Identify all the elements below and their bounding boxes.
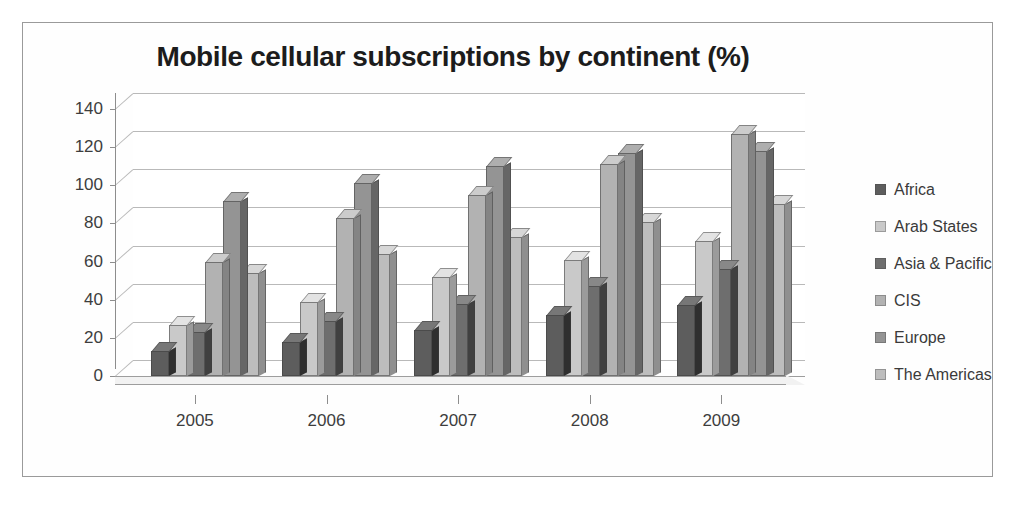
bar-side [504, 162, 511, 376]
x-tick-label: 2008 [571, 411, 609, 431]
bar-side [432, 327, 439, 376]
y-tick-label: 140 [75, 99, 103, 119]
bar-side [354, 214, 361, 376]
x-tick-mark [327, 395, 328, 404]
legend-swatch-icon [875, 184, 886, 195]
bar-side [695, 302, 702, 376]
legend-item-label: Europe [894, 329, 946, 347]
bar-side [486, 191, 493, 376]
bar-side [749, 130, 756, 376]
x-tick-label: 2007 [439, 411, 477, 431]
x-tick-label: 2006 [308, 411, 346, 431]
x-tick-label: 2009 [702, 411, 740, 431]
chart-legend: AfricaArab StatesAsia & PacificCISEurope… [875, 171, 1015, 393]
legend-swatch-icon [875, 295, 886, 306]
bar-side [336, 317, 343, 376]
y-tick-label: 20 [84, 328, 103, 348]
bar-side [564, 311, 571, 376]
legend-item-asia-pacific[interactable]: Asia & Pacific [875, 245, 1015, 282]
bar-africa-2008 [546, 315, 564, 376]
plot-wrapper: 020406080100120140 20052006200720082009 [23, 93, 843, 473]
y-tick-label: 100 [75, 175, 103, 195]
bar-side [450, 273, 457, 376]
legend-item-africa[interactable]: Africa [875, 171, 1015, 208]
bar-group-2007 [414, 101, 522, 376]
x-tick-label: 2005 [176, 411, 214, 431]
bar-side [731, 265, 738, 376]
legend-swatch-icon [875, 258, 886, 269]
y-tick-label: 60 [84, 252, 103, 272]
y-tick-label: 0 [94, 366, 103, 386]
y-tick-label: 120 [75, 137, 103, 157]
legend-item-arab-states[interactable]: Arab States [875, 208, 1015, 245]
x-axis-labels: 20052006200720082009 [115, 395, 805, 435]
legend-item-label: Africa [894, 181, 935, 199]
bar-group-2006 [282, 101, 390, 376]
bar-side [767, 147, 774, 376]
y-tick-label: 80 [84, 213, 103, 233]
bar-group-2009 [677, 101, 785, 376]
legend-item-label: CIS [894, 292, 921, 310]
bar-face [677, 305, 695, 376]
bar-face [151, 351, 169, 376]
legend-item-the-americas[interactable]: The Americas [875, 356, 1015, 393]
bar-side [390, 250, 397, 376]
bar-side [522, 233, 529, 376]
bar-side [654, 218, 661, 376]
bar-side [187, 321, 194, 376]
bar-side [600, 283, 607, 376]
bar-side [785, 201, 792, 376]
bar-side [582, 256, 589, 376]
x-tick-mark [721, 395, 722, 404]
chart-frame: Mobile cellular subscriptions by contine… [22, 22, 993, 477]
chart-title: Mobile cellular subscriptions by contine… [23, 41, 883, 73]
legend-swatch-icon [875, 369, 886, 380]
plot-area [115, 93, 805, 385]
bar-africa-2007 [414, 330, 432, 376]
y-axis-labels: 020406080100120140 [23, 93, 109, 385]
bar-face [414, 330, 432, 376]
bar-side [300, 338, 307, 376]
legend-item-europe[interactable]: Europe [875, 319, 1015, 356]
x-tick-mark [590, 395, 591, 404]
legend-item-cis[interactable]: CIS [875, 282, 1015, 319]
bar-side [372, 180, 379, 376]
bar-face [546, 315, 564, 376]
bar-side [618, 161, 625, 376]
x-tick-mark [195, 395, 196, 404]
legend-swatch-icon [875, 221, 886, 232]
legend-item-label: Asia & Pacific [894, 255, 992, 273]
bar-face [282, 342, 300, 376]
legend-item-label: The Americas [894, 366, 992, 384]
x-tick-mark [458, 395, 459, 404]
bar-side [241, 197, 248, 376]
bar-africa-2005 [151, 351, 169, 376]
legend-swatch-icon [875, 332, 886, 343]
bar-side [205, 328, 212, 376]
bar-africa-2009 [677, 305, 695, 376]
bar-side [259, 269, 266, 376]
bar-side [468, 300, 475, 376]
legend-item-label: Arab States [894, 218, 978, 236]
bar-africa-2006 [282, 342, 300, 376]
bar-side [713, 237, 720, 376]
bar-group-2005 [151, 101, 259, 376]
bar-group-2008 [546, 101, 654, 376]
bar-side [223, 258, 230, 376]
bar-side [318, 298, 325, 376]
y-tick-label: 40 [84, 290, 103, 310]
bar-side [636, 149, 643, 376]
bars-layer [115, 93, 805, 385]
bar-side [169, 347, 176, 376]
